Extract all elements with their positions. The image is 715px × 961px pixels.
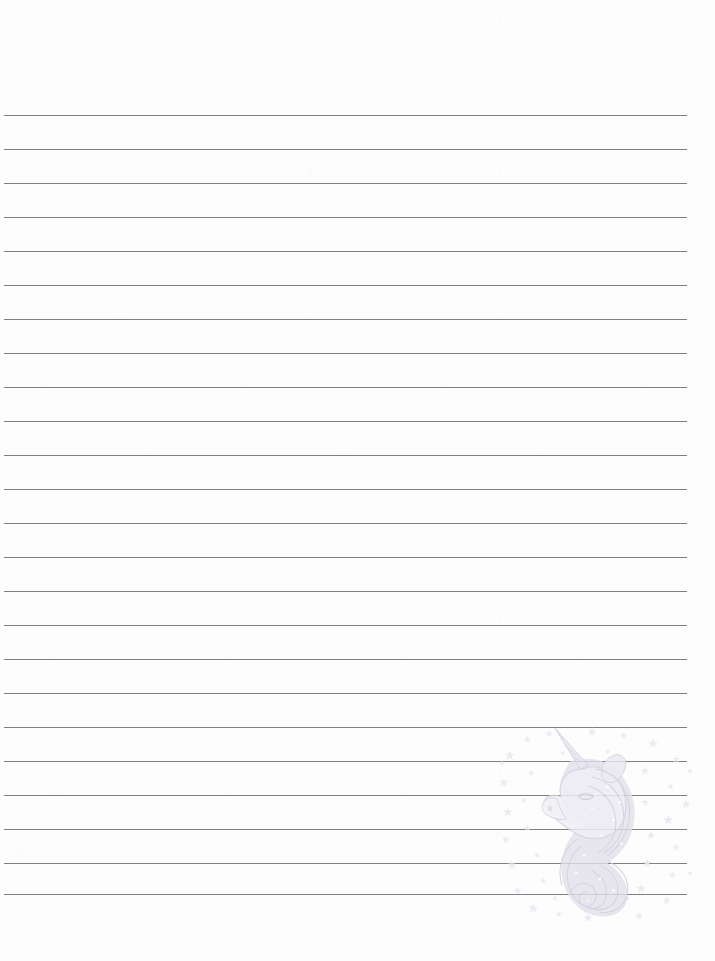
unicorn-muzzle xyxy=(542,798,566,819)
watermark-star xyxy=(584,913,593,922)
watermark-star xyxy=(681,800,691,809)
rule-line xyxy=(4,217,687,218)
watermark-star xyxy=(646,831,655,840)
watermark-star xyxy=(667,783,674,790)
watermark-star xyxy=(605,748,611,754)
unicorn-watermark xyxy=(498,726,694,922)
lined-paper-page xyxy=(0,0,715,961)
rule-line xyxy=(4,489,687,490)
watermark-star xyxy=(620,732,628,739)
watermark-star xyxy=(687,768,693,774)
watermark-star xyxy=(610,909,617,915)
watermark-star xyxy=(503,807,513,816)
watermark-star xyxy=(648,738,659,748)
rule-line xyxy=(4,523,687,524)
watermark-star xyxy=(520,797,527,803)
watermark-star xyxy=(507,860,517,869)
watermark-star xyxy=(636,884,646,893)
watermark-star xyxy=(624,895,630,901)
rule-line xyxy=(4,353,687,354)
rule-line xyxy=(4,829,687,830)
watermark-star xyxy=(555,910,563,917)
watermark-star xyxy=(534,852,541,858)
watermark-star xyxy=(663,815,674,825)
watermark-star xyxy=(504,750,515,760)
unicorn-mane-mass xyxy=(560,759,635,917)
watermark-star xyxy=(502,835,510,843)
rule-line xyxy=(4,727,687,728)
watermark-star xyxy=(640,766,650,775)
rule-line xyxy=(4,251,687,252)
unicorn-mane-strands xyxy=(560,769,630,912)
watermark-star xyxy=(687,870,693,875)
watermark-star xyxy=(528,770,535,776)
rule-line xyxy=(4,557,687,558)
rule-line xyxy=(4,421,687,422)
unicorn-horn xyxy=(555,728,588,769)
watermark-star xyxy=(662,896,671,904)
watermark-unicorn-figure xyxy=(542,728,634,916)
watermark-star xyxy=(641,798,649,805)
unicorn-horn-spiral-1 xyxy=(565,746,577,756)
rule-line xyxy=(4,894,687,895)
watermark-star xyxy=(499,778,508,787)
rule-line xyxy=(4,659,687,660)
rule-line xyxy=(4,625,687,626)
unicorn-sparkle-dots xyxy=(575,785,623,901)
watermark-star xyxy=(560,751,566,756)
watermark-star xyxy=(528,903,539,913)
rule-line xyxy=(4,455,687,456)
watermark-star xyxy=(523,736,531,743)
unicorn-nostril xyxy=(548,806,553,811)
rule-line xyxy=(4,795,687,796)
watermark-star xyxy=(673,844,681,851)
watermark-stars xyxy=(499,727,693,922)
watermark-star xyxy=(552,896,558,901)
rule-line xyxy=(4,115,687,116)
rule-line xyxy=(4,761,687,762)
paper-texture xyxy=(0,0,715,961)
rule-line xyxy=(4,863,687,864)
watermark-star xyxy=(587,727,597,736)
rule-line xyxy=(4,591,687,592)
rule-line xyxy=(4,183,687,184)
unicorn-ear xyxy=(602,755,626,783)
watermark-star xyxy=(540,878,547,884)
watermark-star xyxy=(635,912,643,920)
rule-line xyxy=(4,149,687,150)
rule-line xyxy=(4,285,687,286)
rule-line xyxy=(4,387,687,388)
rule-line xyxy=(4,693,687,694)
watermark-star xyxy=(668,871,676,878)
unicorn-head xyxy=(545,767,626,839)
watermark-star xyxy=(545,730,552,737)
rule-line xyxy=(4,319,687,320)
